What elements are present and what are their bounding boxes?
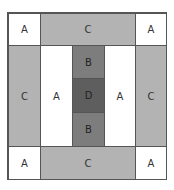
cell-inner-right: A [104, 45, 136, 147]
cell-center-top: B [72, 45, 105, 79]
cell-inner-left: A [40, 45, 73, 147]
cell-left-side: C [8, 45, 41, 147]
cell-top-center: C [40, 13, 136, 46]
cell-center: D [72, 78, 105, 113]
cell-bottom-left: A [8, 146, 41, 180]
cell-top-left: A [8, 13, 41, 46]
cell-top-right: A [135, 13, 167, 46]
cell-bottom-right: A [135, 146, 167, 180]
cell-right-side: C [135, 45, 167, 147]
cell-bottom-center: C [40, 146, 136, 180]
cell-center-bottom: B [72, 112, 105, 147]
quilt-block-diagram: A C A C A B D B A C A C A [7, 12, 167, 180]
